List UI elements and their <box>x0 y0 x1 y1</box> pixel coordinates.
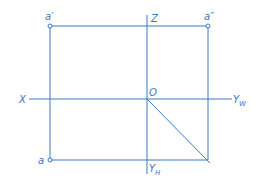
point-a-prime <box>48 24 52 28</box>
point-a <box>48 158 52 162</box>
label-a-prime: a′ <box>45 11 54 22</box>
label-a-double-prime: a″ <box>204 11 214 22</box>
point-a-double-prime <box>206 24 210 28</box>
projection-diagram: a′ a″ a Z X O YW YH <box>0 0 265 191</box>
label-x: X <box>18 94 27 105</box>
label-yw: YW <box>233 94 247 108</box>
label-z: Z <box>150 13 159 24</box>
label-a: a <box>38 155 44 166</box>
label-yh: YH <box>149 163 161 177</box>
label-origin: O <box>149 87 157 98</box>
45-degree-miter-line <box>147 99 210 163</box>
